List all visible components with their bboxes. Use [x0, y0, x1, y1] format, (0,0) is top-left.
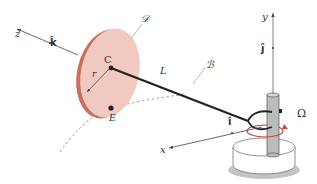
- rotation-arrowhead: [282, 124, 288, 129]
- x-axis-label: x: [160, 144, 166, 155]
- rod-length-label: L: [159, 65, 167, 76]
- base-cylinder: [233, 138, 295, 174]
- y-axis-label: y: [261, 11, 268, 22]
- omega-label: Ω: [297, 107, 306, 120]
- disk-leader-line: [131, 24, 142, 39]
- radius-label: r: [92, 69, 97, 79]
- body-label: ℬ: [206, 59, 215, 70]
- disk: [68, 23, 147, 124]
- z-axis: [17, 29, 78, 55]
- body-leader-line: [193, 68, 205, 84]
- center-label: C: [104, 54, 112, 65]
- post: [267, 93, 279, 157]
- point-e-label: E: [108, 112, 116, 123]
- j-hat-label: ĵ: [260, 43, 265, 54]
- z-axis-label: z: [14, 28, 21, 39]
- mechanics-diagram: z k̂ r 𝒟 C E L ℬ y ĵ Ω: [0, 0, 317, 184]
- j-hat-arrow-dot: [272, 47, 274, 49]
- pivot-pin: [279, 109, 282, 113]
- i-hat-arrow-dot: [231, 132, 233, 134]
- disk-label: 𝒟: [141, 13, 151, 24]
- point-e: [108, 105, 113, 110]
- k-hat-label: k̂: [49, 36, 57, 48]
- center-point: [109, 66, 114, 71]
- i-hat-label: î: [227, 116, 232, 127]
